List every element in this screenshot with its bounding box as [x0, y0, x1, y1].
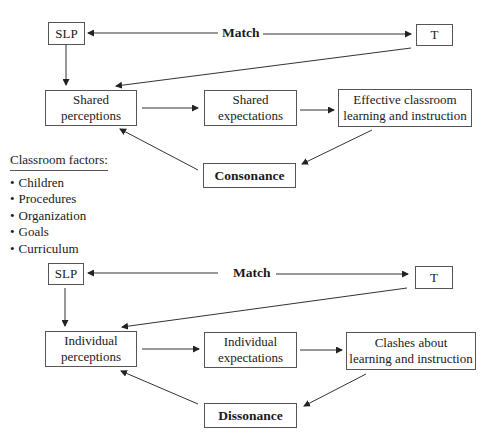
effective-learning-box: Effective classroom learning and instruc…: [338, 89, 472, 127]
box-text: expectations: [218, 350, 283, 366]
slp-box-bottom: SLP: [48, 263, 84, 285]
box-text: Individual: [64, 333, 117, 349]
box-text: Individual: [224, 334, 277, 350]
individual-expectations-box: Individual expectations: [204, 332, 297, 368]
shared-expectations-box: Shared expectations: [204, 90, 297, 126]
classroom-factors-title: Classroom factors:: [10, 152, 108, 171]
shared-perceptions-box: Shared perceptions: [45, 90, 137, 126]
teacher-box-top: T: [416, 24, 453, 46]
match-label-top: Match: [219, 25, 263, 41]
slp-label: SLP: [55, 26, 77, 42]
slp-box-top: SLP: [48, 22, 85, 45]
match-label-bottom: Match: [230, 265, 274, 281]
factor-item: Curriculum: [10, 241, 108, 258]
factor-item: Organization: [10, 208, 108, 225]
individual-perceptions-box: Individual perceptions: [45, 331, 137, 367]
teacher-label: T: [430, 270, 438, 286]
teacher-box-bottom: T: [415, 266, 453, 289]
box-text: perceptions: [61, 349, 121, 365]
factor-item: Procedures: [10, 191, 108, 208]
box-text: expectations: [218, 108, 283, 124]
box-text: learning and instruction: [349, 351, 472, 367]
box-text: Shared: [73, 92, 109, 108]
classroom-factors-list: Children Procedures Organization Goals C…: [10, 175, 108, 258]
factor-item: Children: [10, 175, 108, 192]
consonance-box: Consonance: [203, 163, 296, 188]
factor-item: Goals: [10, 224, 108, 241]
box-text: learning and instruction: [343, 108, 466, 124]
box-text: perceptions: [61, 108, 121, 124]
box-text: Effective classroom: [353, 92, 456, 108]
dissonance-box: Dissonance: [204, 403, 297, 428]
box-text: Shared: [232, 92, 268, 108]
consonance-label: Consonance: [215, 168, 285, 184]
dissonance-label: Dissonance: [218, 408, 283, 424]
box-text: Clashes about: [375, 335, 448, 351]
classroom-factors: Classroom factors: Children Procedures O…: [10, 152, 108, 257]
teacher-label: T: [431, 27, 439, 43]
clashes-box: Clashes about learning and instruction: [346, 332, 476, 370]
slp-label: SLP: [55, 266, 77, 282]
